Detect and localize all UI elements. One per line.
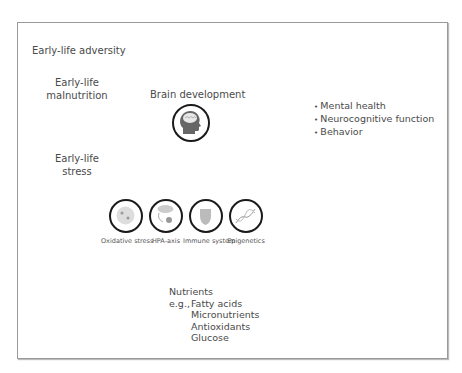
nutrient-item: Fatty acids (191, 298, 259, 310)
mechanism-label-immune-system: Immune system (183, 237, 231, 245)
outcome-item: Behavior (314, 126, 434, 139)
mechanism-label-hpa-axis: HPA-axis (146, 237, 186, 245)
dna-icon (229, 199, 263, 233)
nutrients-heading: Nutrients (169, 286, 259, 298)
input-stress: Early-life stress (42, 152, 112, 178)
nutrients-block: Nutrients e.g., Fatty acids Micronutrien… (169, 286, 259, 344)
mechanism-label-epigenetics: Epigenetics (226, 237, 266, 245)
nutrients-prefix: e.g., (169, 298, 191, 344)
title-early-life-adversity: Early-life adversity (32, 44, 126, 57)
brain-development-label: Brain development (150, 88, 245, 101)
mechanism-label-oxidative-stress: Oxidative stress (101, 237, 151, 245)
input-malnutrition: Early-life malnutrition (42, 76, 112, 102)
outcome-item: Neurocognitive function (314, 113, 434, 126)
shield-icon (189, 199, 223, 233)
hpa-axis-icon (149, 199, 183, 233)
head-brain-icon (172, 104, 210, 142)
nutrient-item: Antioxidants (191, 321, 259, 333)
nutrient-item: Glucose (191, 332, 259, 344)
outcomes-list: Mental health Neurocognitive function Be… (314, 100, 434, 139)
nutrient-item: Micronutrients (191, 309, 259, 321)
cell-icon (109, 199, 143, 233)
outcome-item: Mental health (314, 100, 434, 113)
